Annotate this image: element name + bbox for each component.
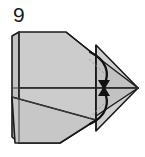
origami-step-diagram: 9 (0, 0, 145, 157)
step-number-label: 9 (13, 3, 25, 26)
origami-illustration: 9 (0, 0, 145, 157)
